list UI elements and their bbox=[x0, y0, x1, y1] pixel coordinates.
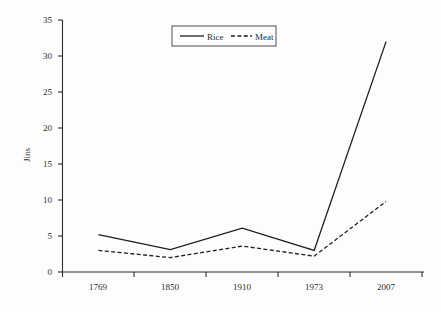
y-tick-label-25: 25 bbox=[43, 87, 53, 97]
legend-label-rice: Rice bbox=[207, 32, 224, 42]
x-category-label-1973: 1973 bbox=[305, 282, 324, 292]
y-tick-label-10: 10 bbox=[43, 195, 53, 205]
y-tick-label-30: 30 bbox=[43, 51, 53, 61]
x-category-label-1910: 1910 bbox=[233, 282, 252, 292]
x-category-label-2007: 2007 bbox=[377, 282, 396, 292]
y-tick-label-0: 0 bbox=[48, 267, 53, 277]
y-axis-title: Jins bbox=[22, 148, 32, 163]
y-tick-marks bbox=[58, 20, 63, 272]
y-tick-label-20: 20 bbox=[43, 123, 53, 133]
chart-legend: Rice Meat bbox=[172, 26, 276, 46]
x-category-label-1850: 1850 bbox=[161, 282, 180, 292]
chart-container: 0 5 10 15 20 25 30 35 Jins 1769 1850 191… bbox=[0, 0, 441, 312]
line-chart-plot: 0 5 10 15 20 25 30 35 Jins 1769 1850 191… bbox=[0, 0, 441, 312]
series-line-rice bbox=[98, 42, 386, 251]
x-category-label-1769: 1769 bbox=[89, 282, 108, 292]
legend-label-meat: Meat bbox=[255, 32, 274, 42]
y-tick-label-15: 15 bbox=[43, 159, 53, 169]
y-tick-label-35: 35 bbox=[43, 15, 53, 25]
series-line-meat bbox=[98, 201, 386, 257]
x-tick-marks bbox=[63, 272, 423, 277]
y-tick-label-5: 5 bbox=[48, 231, 53, 241]
